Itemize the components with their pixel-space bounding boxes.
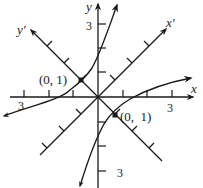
- rotated-axes-diagram: y x x' y' 3 3 3 3 (0, 1) (0, 1): [0, 0, 203, 188]
- point-label-upper: (0, 1): [39, 72, 67, 87]
- vertex-point-upper: [79, 78, 84, 83]
- x-axis-label: x: [190, 81, 197, 96]
- point-label-lower: (0, 1): [120, 109, 151, 124]
- y-tick-label-pos: 3: [86, 19, 92, 33]
- hyperbola-lower-branch: [80, 78, 191, 186]
- x-tick-label-neg: 3: [18, 99, 24, 113]
- y-prime-axis-label: y': [15, 22, 26, 37]
- y-tick-label-neg: 3: [117, 166, 123, 180]
- vertex-point-lower: [113, 113, 118, 118]
- y-prime-axis: [31, 30, 162, 161]
- x-prime-axis-label: x': [165, 15, 175, 30]
- x-tick-label-pos: 3: [167, 101, 173, 115]
- y-axis-label: y: [84, 0, 92, 14]
